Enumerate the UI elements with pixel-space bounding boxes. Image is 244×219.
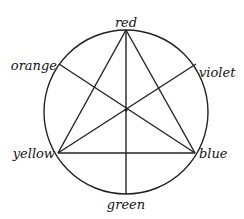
label-orange: orange xyxy=(11,58,57,73)
label-green: green xyxy=(107,197,145,212)
center-point xyxy=(124,108,127,111)
label-violet: violet xyxy=(199,65,236,80)
label-blue: blue xyxy=(199,146,228,161)
color-wheel-diagram: red orange violet yellow blue green xyxy=(0,0,244,219)
connection-lines xyxy=(58,30,196,194)
label-yellow: yellow xyxy=(12,146,55,161)
label-red: red xyxy=(115,15,137,30)
edge-red-yellow xyxy=(58,30,126,153)
edge-red-blue xyxy=(126,30,195,153)
